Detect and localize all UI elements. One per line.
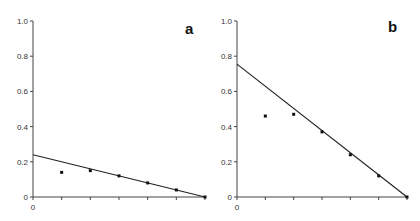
data-point	[292, 113, 295, 116]
data-point	[118, 174, 121, 177]
y-tick-label: 0	[228, 193, 233, 202]
panel-a: 00.20.40.60.81.00a	[17, 17, 207, 212]
y-tick-label: 1.0	[221, 17, 233, 26]
y-tick-label: 0.8	[221, 52, 233, 61]
panel-label: a	[185, 20, 194, 37]
y-tick-label: 1.0	[17, 17, 29, 26]
data-point	[204, 196, 207, 199]
data-point	[60, 171, 63, 174]
x-tick-label: 0	[235, 203, 240, 212]
y-tick-label: 0.2	[221, 158, 233, 167]
data-point	[349, 153, 352, 156]
data-point	[146, 181, 149, 184]
data-point	[264, 115, 267, 118]
y-tick-label: 0.2	[17, 158, 29, 167]
y-tick-label: 0.4	[221, 123, 233, 132]
y-tick-label: 0.8	[17, 52, 29, 61]
x-tick-label: 0	[31, 203, 36, 212]
data-point	[406, 196, 409, 199]
figure: 00.20.40.60.81.00a 00.20.40.60.81.00b	[0, 0, 420, 221]
y-tick-label: 0.4	[17, 123, 29, 132]
data-point	[321, 130, 324, 133]
panel-b: 00.20.40.60.81.00b	[221, 17, 409, 212]
y-tick-label: 0.6	[221, 87, 233, 96]
panel-label: b	[388, 18, 397, 35]
y-tick-label: 0.6	[17, 87, 29, 96]
data-point	[89, 169, 92, 172]
data-point	[175, 188, 178, 191]
y-tick-label: 0	[24, 193, 29, 202]
data-point	[377, 174, 380, 177]
